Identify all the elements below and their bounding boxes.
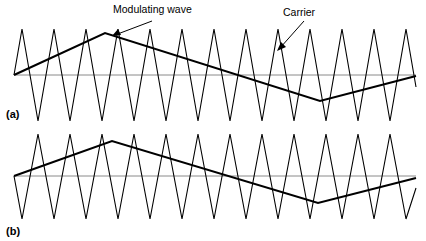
panel-b-modulating-wave [14,141,416,203]
panel-a-group [14,29,416,121]
carrier-leader-line [280,21,304,48]
modulating-wave-arrowhead-icon [112,29,121,36]
waveform-figure: Modulating wave Carrier (a) (b) [0,0,426,241]
modulating-wave-leader-line [115,21,152,35]
panel-a-modulating-wave [14,33,416,101]
modulating-wave-label: Modulating wave [113,4,192,15]
panel-b-group [14,134,416,219]
waveform-svg [0,0,426,241]
panel-a-label: (a) [6,109,19,120]
panel-b-label: (b) [6,226,20,237]
carrier-label: Carrier [283,7,315,18]
